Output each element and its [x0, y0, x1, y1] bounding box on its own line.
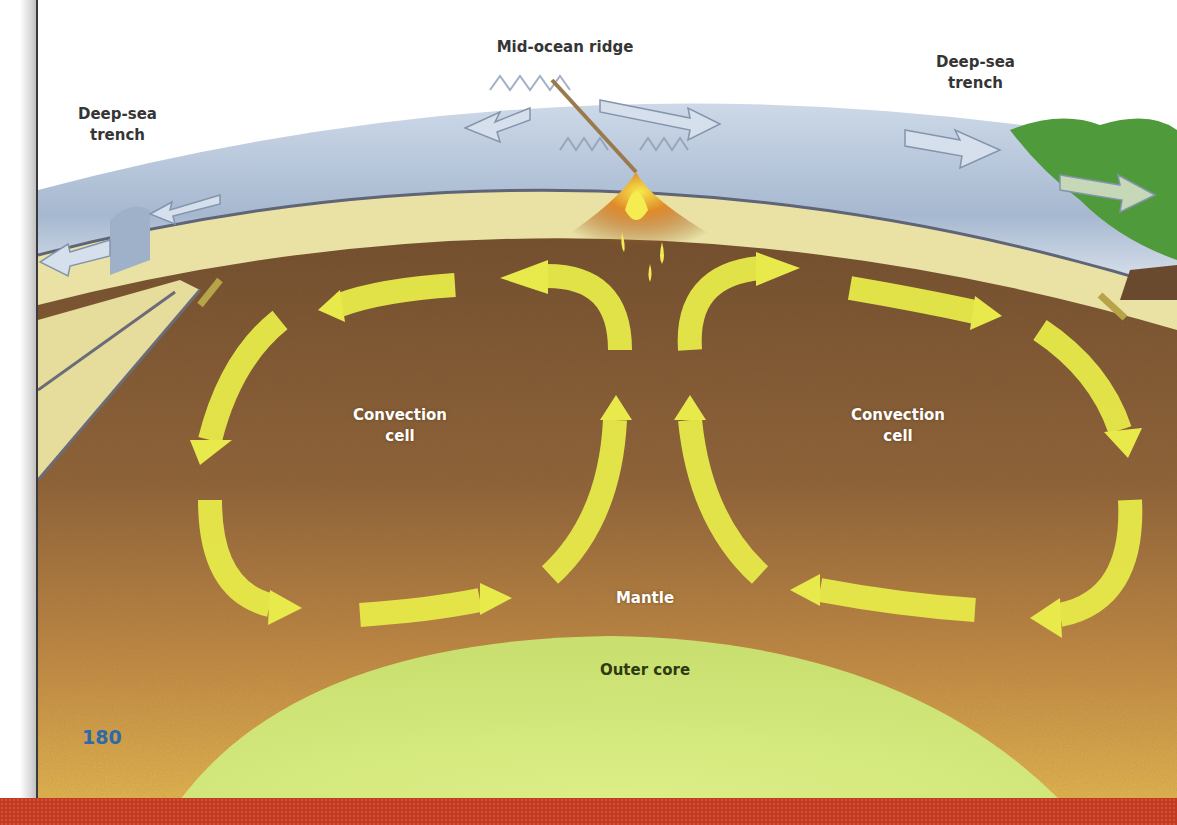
label-deep-sea-trench-right: Deep-sea trench	[928, 52, 1023, 94]
footer-band	[0, 798, 1177, 825]
label-deep-sea-trench-left: Deep-sea trench	[70, 104, 165, 146]
label-outer-core: Outer core	[590, 660, 700, 681]
label-mantle: Mantle	[600, 588, 690, 609]
plate-tectonics-diagram	[0, 0, 1177, 800]
label-mid-ocean-ridge: Mid-ocean ridge	[480, 37, 650, 58]
label-convection-cell-right: Convection cell	[843, 405, 953, 447]
label-convection-cell-left: Convection cell	[345, 405, 455, 447]
page-number: 180	[82, 726, 122, 748]
